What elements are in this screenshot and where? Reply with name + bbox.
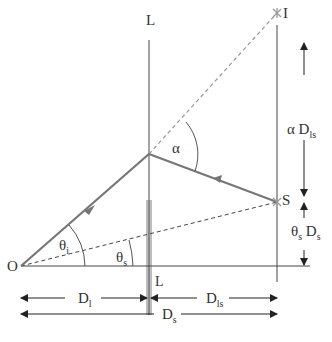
dashed-line-observer-to-image (149, 13, 277, 154)
theta-s-arc (129, 240, 133, 266)
alpha-label: α (172, 140, 180, 156)
lensing-diagram: L L O I S α θi θs α Dls θs Ds Dl Dls Ds (0, 0, 332, 342)
theta-i-label: θi (59, 237, 69, 256)
image-label: I (283, 5, 288, 21)
observer-label: O (7, 258, 18, 274)
dls-label: Dls (206, 290, 224, 309)
theta-s-label: θs (116, 249, 127, 268)
lens-top-label: L (146, 12, 155, 28)
alpha-arc (186, 122, 198, 171)
ds-label: Ds (162, 306, 177, 325)
source-label: S (282, 192, 290, 208)
image-star-icon (273, 8, 281, 18)
thetas-ds-label: θs Ds (291, 223, 321, 242)
dl-label: Dl (78, 290, 92, 309)
lens-bottom-label: L (155, 274, 164, 289)
theta-i-arc (69, 225, 85, 266)
alpha-dls-label: α Dls (287, 121, 316, 140)
